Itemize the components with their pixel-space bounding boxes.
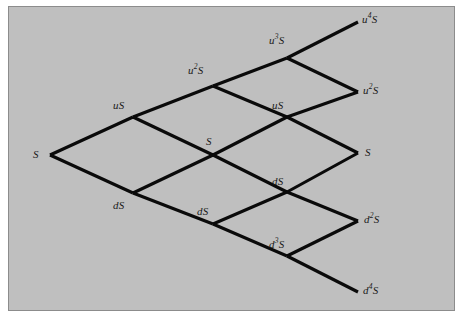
node-label-n2-uu: u2S [188,65,203,76]
lattice-edge [287,58,358,92]
lattice-edge [213,58,287,86]
node-label-n3-udd: dS [272,176,283,187]
node-label-n0-0: S [33,149,39,160]
node-label-n1-u: uS [113,100,124,111]
node-label-n4-s: S [365,147,371,158]
lattice-edge [287,153,358,192]
lattice-edge [287,117,358,153]
lattice-edge [50,155,133,193]
lattice-edge [287,221,358,256]
edge-group [50,22,358,292]
lattice-edge [50,117,133,155]
node-label-n3-uud: uS [272,100,283,111]
node-label-n3-uuu: u3S [269,35,284,46]
lattice-edge [287,22,358,58]
lattice-edge [133,86,213,117]
node-label-n4-u4: u4S [362,14,377,25]
node-label-n2-dd: dS [197,206,208,217]
node-label-n4-d2: d2S [364,214,379,225]
binomial-lattice-figure: SuSdSu2SSdSu3SuSdSd3Su4Su2SSd2Sd4S [0,0,475,323]
lattice-edge [133,117,213,155]
lattice-edge [213,192,287,224]
node-label-n4-u2: u2S [363,85,378,96]
node-label-n2-ud: S [206,136,212,147]
lattice-edge [213,117,287,155]
lattice-edge [287,256,358,292]
node-label-n3-ddd: d3S [269,239,284,250]
node-label-n1-d: dS [113,200,124,211]
lattice-edge [287,192,358,221]
node-label-n4-d4: d4S [363,285,378,296]
lattice-edge [287,92,358,117]
lattice-edge [133,155,213,193]
lattice-edges [0,0,475,323]
